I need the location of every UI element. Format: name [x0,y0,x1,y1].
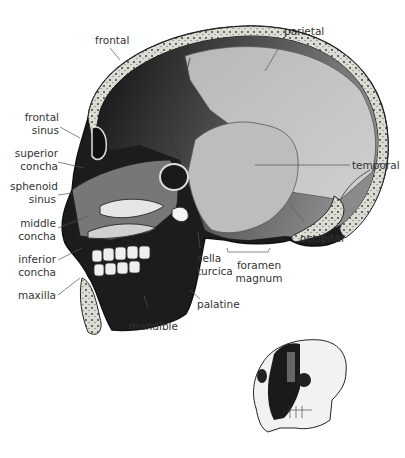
pterygoid-plate [172,207,188,221]
label-mandible: mandible [129,320,178,333]
label-maxilla: maxilla [14,289,56,302]
sphenoid-sinus-cavity [160,164,188,190]
orientation-inset-skull [254,340,347,432]
label-frontal-sinus: frontal sinus [20,111,59,137]
label-frontal: frontal [95,34,129,47]
label-occipital: occipital [300,232,344,245]
label-temporal: temporal [352,159,400,172]
label-parietal: parietal [284,25,324,38]
label-superior-concha: superior concha [14,147,58,173]
skull-illustration [0,0,405,458]
label-sphenoid-sinus: sphenoid sinus [10,180,56,206]
label-sella-turcica: sella turcica [197,252,233,278]
label-middle-concha: middle concha [14,217,56,243]
label-palatine: palatine [197,298,240,311]
label-foramen-magnum: foramen magnum [234,259,284,285]
skull-diagram: frontal parietal frontal sinus superior … [0,0,405,458]
label-inferior-concha: inferior concha [14,253,56,279]
